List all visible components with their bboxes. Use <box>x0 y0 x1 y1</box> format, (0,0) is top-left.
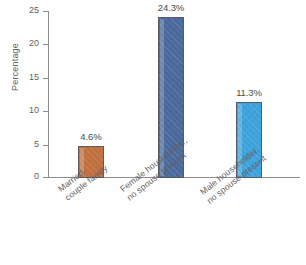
y-axis-tick-label: 10 <box>29 105 39 115</box>
y-axis-tick-label: 25 <box>29 5 39 15</box>
y-axis-tick: 10 <box>43 111 49 112</box>
y-axis-tick: 0 <box>43 177 49 178</box>
y-axis-tick-label: 0 <box>34 171 39 181</box>
y-axis-line <box>48 11 49 178</box>
bar-chart: Percentage 25 20 15 10 5 0 4.6% 24.3% 11… <box>0 0 306 265</box>
bar-value-label: 4.6% <box>69 131 113 142</box>
y-axis-tick-label: 15 <box>29 72 39 82</box>
y-axis-label: Percentage <box>10 31 20 103</box>
bar-value-label: 24.3% <box>149 2 193 13</box>
y-axis-tick: 25 <box>43 11 49 12</box>
y-axis-tick-label: 20 <box>29 38 39 48</box>
y-axis-tick: 15 <box>43 78 49 79</box>
y-axis-tick: 5 <box>43 145 49 146</box>
x-axis-category-label-female-householder: Female householder, no spouse present <box>118 135 196 202</box>
y-axis-tick-label: 5 <box>34 139 39 149</box>
bar-value-label: 11.3% <box>227 87 271 98</box>
y-axis-tick: 20 <box>43 44 49 45</box>
